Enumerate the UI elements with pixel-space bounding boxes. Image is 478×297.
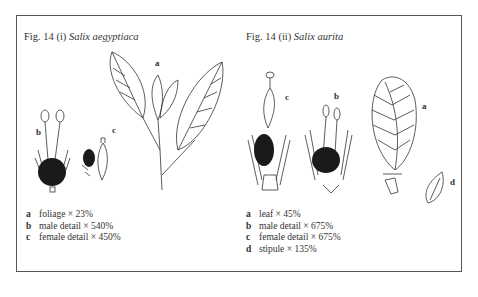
drawing-label-2d: d (450, 177, 455, 187)
male-catkin-shading-1 (38, 158, 66, 186)
salix-aurita-stipule-drawing (426, 172, 443, 203)
drawing-label-2a: a (422, 101, 427, 111)
legend-item: aleaf × 45% (246, 209, 341, 221)
male-catkin-shading-2 (312, 147, 340, 173)
salix-aegyptiaca-foliage-drawing (110, 52, 223, 190)
drawing-label-1a: a (155, 58, 160, 68)
drawing-label-1b: b (36, 127, 41, 137)
salix-aurita-female-detail-drawing (248, 72, 290, 190)
salix-aurita-leaf-drawing (372, 77, 416, 194)
figure-2-legend: aleaf × 45% bmale detail × 675% cfemale … (246, 209, 341, 255)
legend-item: dstipule × 135% (246, 244, 341, 256)
female-catkin-shading-2 (254, 134, 274, 166)
drawing-label-1c: c (112, 125, 116, 135)
legend-item: cfemale detail × 450% (26, 232, 121, 244)
botanical-illustrations (0, 0, 478, 297)
female-catkin-shading-1 (83, 149, 95, 167)
legend-item: bmale detail × 675% (246, 221, 341, 233)
drawing-label-2b: b (334, 91, 339, 101)
legend-item: cfemale detail × 675% (246, 232, 341, 244)
drawing-label-2c: c (285, 92, 289, 102)
figure-1-legend: afoliage × 23% bmale detail × 540% cfema… (26, 209, 121, 244)
legend-item: afoliage × 23% (26, 209, 121, 221)
legend-item: bmale detail × 540% (26, 221, 121, 233)
